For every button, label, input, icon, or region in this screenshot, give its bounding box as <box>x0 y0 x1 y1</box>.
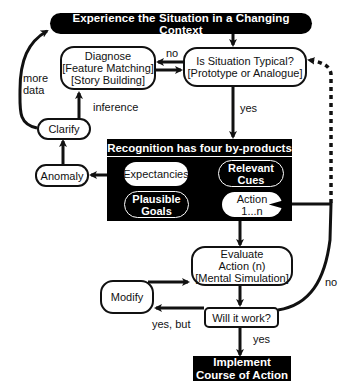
relevant-label: Relevant <box>228 162 274 174</box>
typical-prototype: [Prototype or Analogue] <box>188 67 303 79</box>
anomaly-label: Anomaly <box>41 170 84 182</box>
label-inference: inference <box>93 101 138 113</box>
label-data: data <box>23 84 48 96</box>
modify-label: Modify <box>111 291 143 303</box>
expectancies-label: Expectancies <box>123 168 188 180</box>
clarify-node: Clarify <box>37 118 91 140</box>
evaluate-mental-simulation: [Mental Simulation] <box>195 272 289 284</box>
evaluate-title: Evaluate <box>221 248 264 260</box>
will-it-work-label: Will it work? <box>212 312 271 324</box>
label-no-work: no <box>325 276 337 288</box>
plausible-goals-node: Plausible Goals <box>124 191 189 218</box>
relevant-cues-node: Relevant Cues <box>218 160 284 187</box>
cues-label: Cues <box>238 174 265 186</box>
evaluate-action-n: Action (n) <box>218 260 265 272</box>
modify-node: Modify <box>100 280 154 314</box>
arrow-dashed-to-typical <box>309 60 331 203</box>
clarify-label: Clarify <box>48 123 79 135</box>
recognition-header: Recognition has four by-products <box>107 139 292 157</box>
typical-question: Is Situation Typical? <box>196 55 294 67</box>
implement-label: Implement <box>213 356 271 369</box>
goals-label: Goals <box>141 205 172 217</box>
diagnose-title: Diagnose <box>85 50 131 62</box>
diagnose-story-building: [Story Building] <box>71 74 145 86</box>
experience-label: Experience the Situation in a Changing C… <box>50 12 312 36</box>
action-label: Action <box>237 193 268 205</box>
experience-situation-node: Experience the Situation in a Changing C… <box>50 13 312 34</box>
anomaly-node: Anomaly <box>35 164 89 187</box>
evaluate-action-node: Evaluate Action (n) [Mental Simulation] <box>191 246 293 286</box>
plausible-label: Plausible <box>132 193 180 205</box>
will-it-work-node: Will it work? <box>204 307 279 328</box>
diagnose-feature-matching: [Feature Matching] <box>62 62 154 74</box>
action-range: 1...n <box>241 205 262 217</box>
course-of-action-label: Course of Action <box>196 369 288 382</box>
situation-typical-node: Is Situation Typical? [Prototype or Anal… <box>183 47 307 87</box>
label-more-data: more data <box>23 72 48 96</box>
expectancies-node: Expectancies <box>124 162 188 186</box>
diagnose-node: Diagnose [Feature Matching] [Story Build… <box>60 46 156 90</box>
label-yes-work: yes <box>253 333 270 345</box>
implement-node: Implement Course of Action <box>193 356 291 381</box>
label-yes-but: yes, but <box>152 318 191 330</box>
label-yes-typical: yes <box>240 102 257 114</box>
label-more: more <box>23 72 48 84</box>
label-no-typical: no <box>166 47 178 59</box>
